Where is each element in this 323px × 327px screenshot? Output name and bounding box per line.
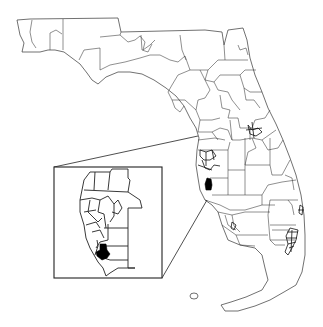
inset-leader-bottom bbox=[162, 200, 207, 278]
florida-district-map bbox=[0, 0, 323, 327]
island-shape bbox=[190, 293, 198, 299]
map-canvas bbox=[0, 0, 323, 327]
inset-frame bbox=[54, 167, 162, 278]
inset-leader-top bbox=[54, 136, 198, 167]
